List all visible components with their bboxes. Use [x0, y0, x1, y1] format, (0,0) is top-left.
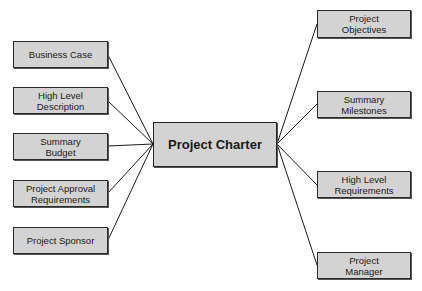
node-label: Project Objectives	[342, 13, 386, 35]
node-summary-budget: Summary Budget	[13, 133, 108, 160]
node-label: High Level Description	[37, 90, 85, 112]
node-project-sponsor: Project Sponsor	[13, 227, 108, 254]
node-project-charter: Project Charter	[153, 122, 277, 167]
node-business-case: Business Case	[13, 41, 108, 68]
node-project-approval-requirements: Project Approval Requirements	[13, 180, 108, 207]
node-label: High Level Requirements	[334, 174, 393, 196]
center-label: Project Charter	[168, 139, 262, 150]
node-project-objectives: Project Objectives	[317, 10, 411, 38]
node-label: Project Manager	[345, 255, 383, 277]
node-label: Business Case	[29, 49, 92, 60]
node-high-level-description: High Level Description	[13, 87, 108, 114]
node-project-manager: Project Manager	[317, 252, 411, 279]
node-summary-milestones: Summary Milestones	[317, 91, 411, 118]
node-label: Summary Milestones	[341, 94, 386, 116]
node-high-level-requirements: High Level Requirements	[317, 171, 411, 198]
node-label: Project Sponsor	[27, 235, 95, 246]
node-label: Project Approval Requirements	[26, 183, 95, 205]
node-label: Summary Budget	[40, 136, 81, 158]
